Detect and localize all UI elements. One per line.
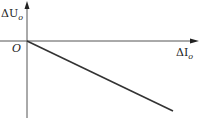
data-line [27, 41, 173, 111]
x-axis-label: ΔIo [176, 46, 193, 61]
chart-figure: ΔUo ΔIo O [0, 0, 204, 127]
origin-label: O [12, 42, 21, 55]
y-axis-label: ΔUo [1, 7, 23, 22]
y-axis-arrow-icon [25, 1, 30, 9]
x-axis-arrow-icon [190, 39, 199, 44]
